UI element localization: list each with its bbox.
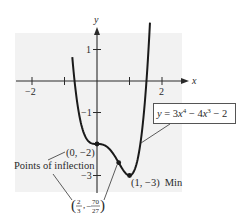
equation-label: y = 3x4 − 4x3 − 2 xyxy=(156,107,227,119)
y-axis-arrow-icon xyxy=(94,27,100,35)
svg-text:,: , xyxy=(83,200,85,210)
svg-text:): ) xyxy=(100,197,105,214)
y-tick-label-neg1: −1 xyxy=(81,107,92,118)
x-tick-label-2: 2 xyxy=(159,86,164,97)
y-axis-label: y xyxy=(93,14,99,25)
x-axis-label: x xyxy=(191,75,197,86)
svg-text:27: 27 xyxy=(92,207,100,215)
point-label-2-3: ( 2 3 , − 70 27 ) xyxy=(71,197,105,215)
inflection-title: Points of inflection xyxy=(14,160,95,171)
inflection-point-0-neg2 xyxy=(95,142,100,147)
x-tick-label-neg2: −2 xyxy=(25,86,36,97)
svg-text:(: ( xyxy=(71,197,76,214)
y-tick-label-neg3: −3 xyxy=(81,170,92,181)
function-graph: x y −2 2 1 −1 −3 y = 3x4 − 4x3 − 2 (0, −… xyxy=(0,0,247,224)
y-tick-label-1: 1 xyxy=(86,44,91,55)
svg-text:2: 2 xyxy=(77,198,81,206)
svg-text:3: 3 xyxy=(77,207,81,215)
inflection-point-2-3 xyxy=(116,160,121,165)
x-axis-arrow-icon xyxy=(181,78,189,84)
svg-text:70: 70 xyxy=(92,198,100,206)
min-point-label: (1, −3)Min xyxy=(131,177,183,189)
point-label-0-neg2: (0, −2) xyxy=(66,147,95,159)
svg-text:−: − xyxy=(86,201,91,211)
